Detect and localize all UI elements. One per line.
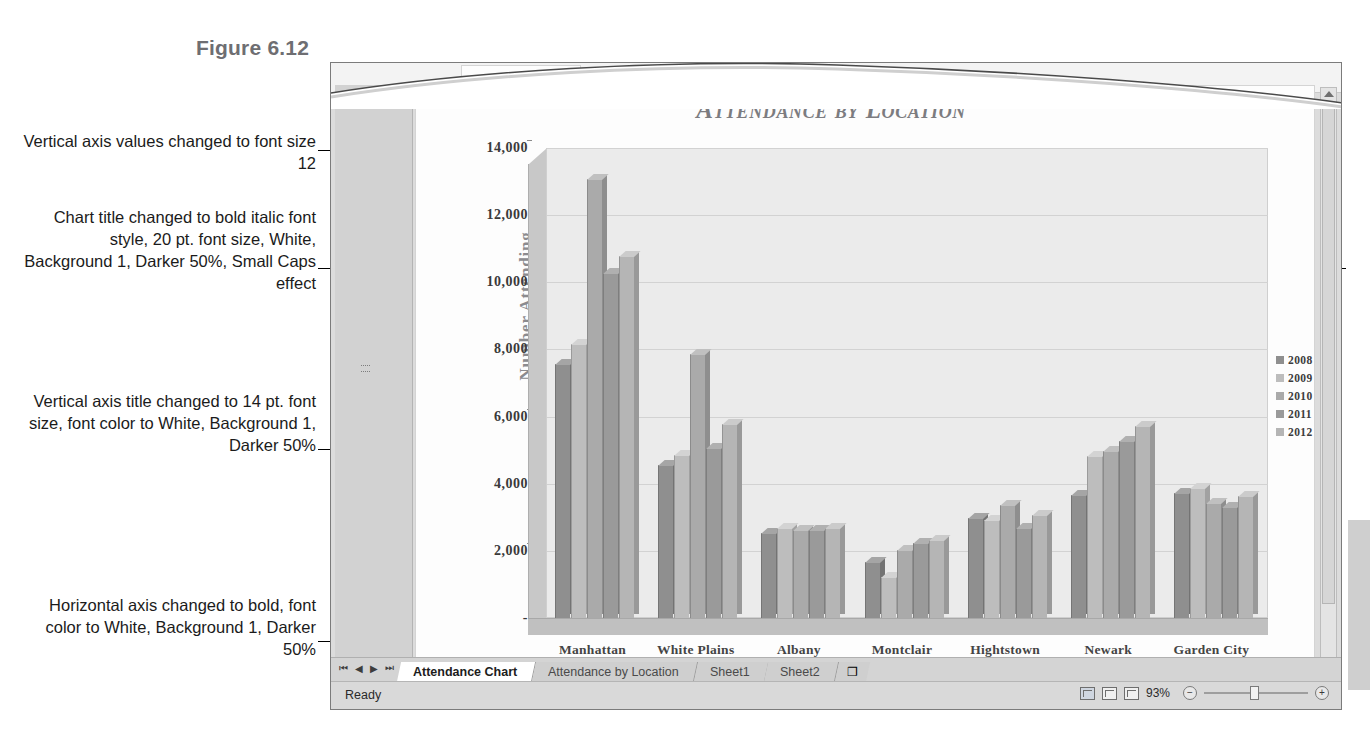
bar-face bbox=[1135, 426, 1150, 619]
bar-face bbox=[929, 540, 944, 619]
bar[interactable] bbox=[603, 273, 618, 619]
bar[interactable] bbox=[619, 256, 634, 619]
legend-swatch bbox=[1276, 356, 1284, 364]
bar[interactable] bbox=[1016, 528, 1031, 619]
zoom-slider[interactable] bbox=[1204, 692, 1308, 694]
y-axis-tick-label: 10,000 bbox=[454, 274, 528, 290]
bar-group[interactable] bbox=[761, 149, 840, 619]
bar[interactable] bbox=[793, 530, 808, 619]
nav-first-icon[interactable]: ⏮ bbox=[339, 662, 348, 674]
bar[interactable] bbox=[1174, 493, 1189, 619]
bar[interactable] bbox=[913, 543, 928, 619]
figure-page: Figure 6.12 Vertical axis values changed… bbox=[0, 0, 1370, 742]
bar[interactable] bbox=[968, 518, 983, 619]
page-layout-view-icon[interactable] bbox=[1102, 687, 1117, 700]
bar[interactable] bbox=[1119, 441, 1134, 619]
y-axis-tick-label: - bbox=[454, 610, 528, 626]
bar[interactable] bbox=[881, 577, 896, 619]
bar[interactable] bbox=[984, 520, 999, 619]
sheet-tabs[interactable]: Attendance ChartAttendance by LocationSh… bbox=[399, 658, 868, 682]
legend-label: 2010 bbox=[1288, 390, 1313, 402]
bar-face bbox=[881, 577, 896, 619]
bar-face bbox=[1119, 441, 1134, 619]
x-axis-category-label: Manhattan bbox=[541, 642, 644, 658]
bar[interactable] bbox=[761, 533, 776, 619]
bar-group[interactable] bbox=[865, 149, 944, 619]
bar[interactable] bbox=[722, 424, 737, 619]
bar-group[interactable] bbox=[555, 149, 634, 619]
y-axis-tick-label: 2,000 bbox=[454, 543, 528, 559]
bar[interactable] bbox=[1206, 503, 1221, 619]
bar[interactable] bbox=[897, 550, 912, 619]
bar-face bbox=[603, 273, 618, 619]
status-text: Ready bbox=[345, 688, 381, 702]
bar-face bbox=[690, 354, 705, 619]
chart-floor bbox=[528, 618, 1268, 635]
nav-last-icon[interactable]: ⏭ bbox=[385, 662, 394, 674]
vertical-scrollbar[interactable] bbox=[1320, 87, 1337, 673]
bar[interactable] bbox=[777, 528, 792, 619]
bar[interactable] bbox=[555, 364, 570, 619]
sheet-nav-buttons[interactable]: ⏮ ◀ ▶ ⏭ bbox=[339, 662, 394, 674]
chart-side-wall bbox=[528, 164, 546, 634]
bar-face bbox=[722, 424, 737, 619]
y-axis-tick-label: 6,000 bbox=[454, 409, 528, 425]
bar[interactable] bbox=[571, 344, 586, 619]
zoom-in-button[interactable]: + bbox=[1315, 686, 1329, 700]
nav-next-icon[interactable]: ▶ bbox=[370, 663, 378, 674]
zoom-out-button[interactable]: − bbox=[1183, 686, 1197, 700]
sheet-tab-sheet2[interactable]: Sheet2 bbox=[764, 662, 839, 682]
page-break-view-icon[interactable] bbox=[1124, 687, 1139, 700]
bar[interactable] bbox=[1032, 515, 1047, 619]
page-edge-stripe bbox=[1348, 520, 1370, 690]
bar-face bbox=[777, 528, 792, 619]
bar-group[interactable] bbox=[658, 149, 737, 619]
bar[interactable] bbox=[1071, 495, 1086, 619]
insert-worksheet-icon[interactable]: ❐ bbox=[835, 662, 870, 682]
normal-view-icon[interactable] bbox=[1080, 687, 1095, 700]
legend-label: 2011 bbox=[1288, 408, 1312, 420]
chart-sheet-canvas: Attendance by Location Number Attending … bbox=[415, 85, 1315, 677]
sheet-tab-label: Attendance Chart bbox=[413, 665, 517, 679]
bar-group[interactable] bbox=[968, 149, 1047, 619]
legend-swatch bbox=[1276, 428, 1284, 436]
bar[interactable] bbox=[690, 354, 705, 619]
bar-face bbox=[555, 364, 570, 619]
bar-group[interactable] bbox=[1071, 149, 1150, 619]
bar[interactable] bbox=[1222, 507, 1237, 619]
bar[interactable] bbox=[809, 530, 824, 619]
bar-face bbox=[571, 344, 586, 619]
figure-label: Figure 6.12 bbox=[196, 36, 309, 60]
sheet-tab-sheet1[interactable]: Sheet1 bbox=[694, 662, 769, 682]
bar[interactable] bbox=[1000, 505, 1015, 619]
bar[interactable] bbox=[825, 528, 840, 619]
sheet-tab-attendance-by-location[interactable]: Attendance by Location bbox=[532, 662, 698, 682]
bar[interactable] bbox=[865, 562, 880, 619]
bar[interactable] bbox=[658, 465, 673, 619]
bar-face bbox=[1206, 503, 1221, 619]
bar-side bbox=[1047, 510, 1052, 614]
bar-face bbox=[897, 550, 912, 619]
bar[interactable] bbox=[1135, 426, 1150, 619]
bar[interactable] bbox=[1087, 456, 1102, 619]
bar-face bbox=[619, 256, 634, 619]
nav-prev-icon[interactable]: ◀ bbox=[355, 663, 363, 674]
bar[interactable] bbox=[929, 540, 944, 619]
bar-face bbox=[1103, 451, 1118, 619]
scrollbar-thumb[interactable] bbox=[1322, 104, 1335, 604]
legend-label: 2008 bbox=[1288, 354, 1313, 366]
bar[interactable] bbox=[587, 179, 602, 619]
bar[interactable] bbox=[674, 455, 689, 620]
callout-chart-title: Chart title changed to bold italic font … bbox=[18, 206, 316, 294]
vertical-axis-labels[interactable]: -2,0004,0006,0008,00010,00012,00014,000 bbox=[444, 148, 528, 648]
zoom-slider-thumb[interactable] bbox=[1250, 686, 1259, 700]
bar-group[interactable] bbox=[1174, 149, 1253, 619]
sheet-tab-attendance-chart[interactable]: Attendance Chart bbox=[397, 662, 536, 682]
sheet-tab-label: Sheet1 bbox=[710, 665, 750, 679]
bar-face bbox=[984, 520, 999, 619]
zoom-level[interactable]: 93% bbox=[1146, 686, 1176, 700]
bar[interactable] bbox=[1103, 451, 1118, 619]
bar[interactable] bbox=[706, 448, 721, 619]
bar[interactable] bbox=[1190, 488, 1205, 619]
bar[interactable] bbox=[1238, 496, 1253, 619]
